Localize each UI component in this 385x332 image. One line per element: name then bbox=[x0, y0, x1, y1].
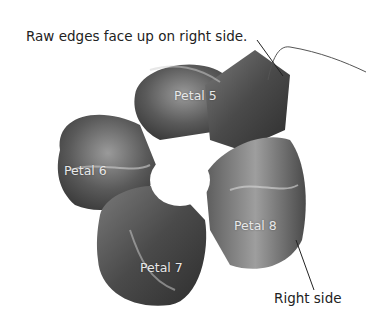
satin-ribbon-flower-image bbox=[0, 0, 385, 332]
petal-6-label: Petal 6 bbox=[64, 163, 107, 178]
petal-8-label: Petal 8 bbox=[234, 218, 277, 233]
raw-edges-callout: Raw edges face up on right side. bbox=[26, 28, 247, 44]
right-side-callout: Right side bbox=[274, 290, 342, 306]
ribbon-flower-photo: Raw edges face up on right side. Right s… bbox=[0, 0, 385, 332]
petal-5-label: Petal 5 bbox=[174, 88, 217, 103]
bottom-leader-line bbox=[296, 240, 314, 290]
petal-7-label: Petal 7 bbox=[140, 260, 183, 275]
